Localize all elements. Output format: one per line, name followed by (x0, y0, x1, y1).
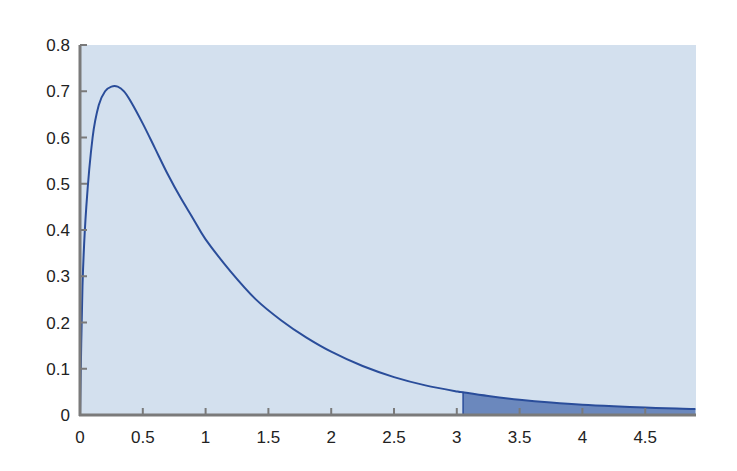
y-tick-label: 0.3 (46, 267, 70, 286)
y-axis: 00.10.20.30.40.50.60.70.8 (46, 36, 87, 425)
x-tick-label: 3 (452, 428, 461, 447)
x-tick-label: 4 (578, 428, 587, 447)
x-tick-label: 4.5 (633, 428, 657, 447)
x-tick-label: 1.5 (257, 428, 281, 447)
x-axis: 00.511.522.533.544.5 (75, 408, 696, 447)
y-tick-label: 0.1 (46, 360, 70, 379)
f-distribution-chart: 00.10.20.30.40.50.60.70.8 00.511.522.533… (0, 0, 737, 471)
x-tick-label: 2.5 (382, 428, 406, 447)
y-tick-label: 0.7 (46, 82, 70, 101)
x-tick-label: 3.5 (508, 428, 532, 447)
x-tick-label: 2 (326, 428, 335, 447)
y-tick-label: 0.5 (46, 175, 70, 194)
y-tick-label: 0.4 (46, 221, 70, 240)
x-tick-label: 1 (201, 428, 210, 447)
plot-background (80, 45, 696, 415)
x-tick-label: 0 (75, 428, 84, 447)
x-tick-label: 0.5 (131, 428, 155, 447)
y-tick-label: 0.8 (46, 36, 70, 55)
y-tick-label: 0 (61, 406, 70, 425)
y-tick-label: 0.6 (46, 129, 70, 148)
y-tick-label: 0.2 (46, 314, 70, 333)
